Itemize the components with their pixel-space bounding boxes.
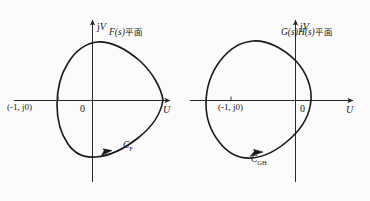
gh-plane-name-label: G(s)H(s)平面 [281, 28, 333, 38]
panel-gh-plane: jV U G(s)H(s)平面 0 (-1, j0) CGH [185, 0, 370, 201]
f-plane-name-cjk: 平面 [125, 27, 143, 37]
f-plane-jv-axis-label: jjVV [97, 22, 106, 32]
f-plane-name-label: F(s)平面 [109, 28, 143, 38]
contour-cf-path [57, 42, 163, 157]
gh-plane-name-math: G(s)H(s) [281, 27, 315, 37]
gh-plane-contour-label-sub: GH [257, 159, 266, 166]
gh-plane-name-cjk: 平面 [315, 27, 333, 37]
gh-plane-origin-label: 0 [300, 104, 305, 114]
f-plane-contour-label: CF [123, 141, 133, 152]
f-plane-u-axis-label: U [163, 105, 170, 115]
gh-plane-u-axis-label: U [346, 105, 353, 115]
f-plane-diagram [0, 0, 185, 201]
gh-plane-critical-point-label: (-1, j0) [218, 103, 243, 112]
panel-f-plane: jjVV U F(s)平面 0 (-1, j0) CF [0, 0, 185, 201]
f-plane-name-math: F(s) [109, 27, 125, 37]
f-plane-origin-label: 0 [80, 104, 85, 114]
f-plane-contour-label-sub: F [129, 145, 133, 152]
gh-plane-diagram [185, 0, 370, 201]
nyquist-mapping-figure: jjVV U F(s)平面 0 (-1, j0) CF [0, 0, 370, 201]
gh-plane-contour-label: CGH [251, 155, 267, 166]
f-plane-critical-point-label: (-1, j0) [7, 103, 32, 112]
